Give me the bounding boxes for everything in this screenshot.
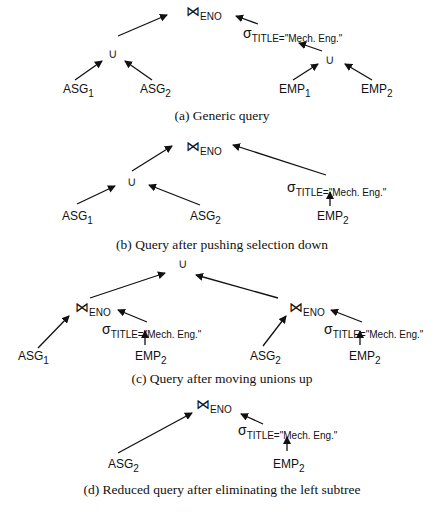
relation-asg2: ASG2: [190, 210, 221, 226]
union-node: ∪: [325, 53, 335, 66]
caption-d: (d) Reduced query after eliminating the …: [0, 483, 444, 497]
select-node-left: σTITLE="Mech. Eng.": [102, 322, 201, 340]
relation-emp2: EMP2: [317, 210, 349, 226]
caption-b: (b) Query after pushing selection down: [0, 238, 444, 252]
relation-asg2: ASG2: [140, 83, 171, 99]
select-node: σTITLE="Mech. Eng.": [287, 180, 386, 198]
join-node: ⋈ENO: [186, 139, 222, 157]
select-node: σTITLE="Mech. Eng.": [238, 423, 337, 441]
union-node: ∪: [178, 257, 188, 270]
relation-asg1: ASG1: [62, 210, 93, 226]
relation-asg1: ASG1: [18, 350, 49, 366]
select-node-right: σTITLE="Mech. Eng.": [324, 322, 423, 340]
caption-c: (c) Query after moving unions up: [0, 372, 444, 386]
relation-asg1: ASG1: [63, 83, 94, 99]
arrows-layer: [0, 0, 444, 513]
join-node-right: ⋈ENO: [289, 300, 325, 318]
relation-emp2: EMP2: [273, 458, 305, 474]
relation-emp1: EMP1: [279, 83, 311, 99]
union-node: ∪: [127, 175, 137, 188]
query-tree-figure: ⋈ENO σTITLE="Mech. Eng." ∪ ∪ ASG1 ASG2 E…: [0, 0, 444, 513]
relation-asg2: ASG2: [108, 458, 139, 474]
caption-a: (a) Generic query: [0, 109, 444, 123]
join-node-left: ⋈ENO: [75, 300, 111, 318]
relation-emp2: EMP2: [361, 83, 393, 99]
select-node: σTITLE="Mech. Eng.": [243, 26, 342, 44]
join-node: ⋈ENO: [186, 4, 222, 22]
relation-emp2: EMP2: [349, 350, 381, 366]
relation-emp2: EMP2: [135, 350, 167, 366]
relation-asg2: ASG2: [250, 350, 281, 366]
union-node: ∪: [108, 47, 118, 60]
join-node: ⋈ENO: [196, 397, 232, 415]
